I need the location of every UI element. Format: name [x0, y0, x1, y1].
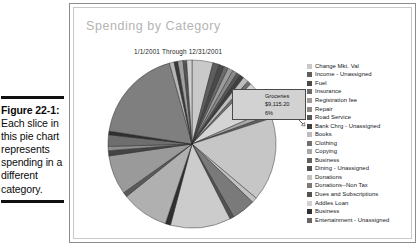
legend-item-label: Dining - Unassigned [315, 165, 369, 172]
legend-item-label: Clothing [315, 140, 337, 147]
legend-item[interactable]: Addles Loan [307, 199, 412, 208]
legend-item[interactable]: Business [307, 156, 412, 165]
legend-item-label: Fuel [315, 80, 327, 87]
legend-item-label: Road Service [315, 114, 351, 121]
pie-chart: Groceries $9,115.20 6% [104, 56, 294, 234]
legend-item-label: Change Mkt. Val [315, 63, 359, 70]
figure-caption-body: Each slice in this pie chart represents … [1, 117, 62, 194]
legend-item[interactable]: Dues and Subscriptions [307, 190, 412, 199]
legend-swatch [307, 158, 312, 163]
legend-swatch [307, 201, 312, 206]
legend-item-label: Donations [315, 174, 342, 181]
callout-amount: $9,115.20 [265, 100, 305, 108]
legend-swatch [307, 81, 312, 86]
legend-swatch [307, 192, 312, 197]
legend-item[interactable]: Dining - Unassigned [307, 165, 412, 174]
legend-item-label: Entertainment - Unassigned [315, 217, 389, 224]
legend-swatch [307, 141, 312, 146]
figure-caption-text: Figure 22-1: Each slice in this pie char… [0, 104, 66, 196]
legend-item-label: Copying [315, 148, 337, 155]
legend-swatch [307, 132, 312, 137]
chart-legend: Change Mkt. ValIncome - UnassignedFuelIn… [307, 62, 412, 224]
legend-swatch [307, 107, 312, 112]
legend-item[interactable]: Change Mkt. Val [307, 62, 412, 71]
legend-swatch [307, 98, 312, 103]
legend-item-label: Bank Chrg - Unassigned [315, 123, 380, 130]
legend-item-label: Registration fee [315, 97, 357, 104]
legend-swatch [307, 175, 312, 180]
legend-swatch [307, 149, 312, 154]
pie-chart-slices [107, 59, 281, 233]
legend-swatch [307, 166, 312, 171]
data-callout[interactable]: Groceries $9,115.20 6% [232, 89, 306, 120]
legend-item[interactable]: Insurance [307, 88, 412, 97]
legend-swatch [307, 72, 312, 77]
legend-item[interactable]: Business [307, 207, 412, 216]
callout-percent: 6% [265, 109, 305, 117]
legend-item[interactable]: Clothing [307, 139, 412, 148]
legend-swatch [307, 64, 312, 69]
legend-item-label: Donations--Non Tax [315, 182, 368, 189]
page-title: Spending by Category [86, 19, 221, 33]
figure-number-label: Figure 22-1: [1, 104, 59, 116]
legend-item-label: Books [315, 131, 332, 138]
report-window: Spending by Category 1/1/2001 Through 12… [69, 3, 416, 243]
legend-item[interactable]: Donations [307, 173, 412, 182]
caption-rule-top [1, 96, 64, 99]
legend-item[interactable]: Copying [307, 147, 412, 156]
legend-item[interactable]: Income - Unassigned [307, 71, 412, 80]
legend-item[interactable]: Fuel [307, 79, 412, 88]
legend-item-label: Repair [315, 106, 333, 113]
legend-swatch [307, 209, 312, 214]
legend-item-label: Income - Unassigned [315, 71, 372, 78]
legend-item[interactable]: Books [307, 130, 412, 139]
figure-caption-block: Figure 22-1: Each slice in this pie char… [0, 96, 66, 203]
legend-swatch [307, 115, 312, 120]
legend-item[interactable]: Donations--Non Tax [307, 182, 412, 191]
legend-item[interactable]: Registration fee [307, 96, 412, 105]
legend-swatch [307, 183, 312, 188]
legend-item[interactable]: Repair [307, 105, 412, 114]
legend-swatch [307, 124, 312, 129]
legend-item-label: Business [315, 208, 339, 215]
legend-item-label: Addles Loan [315, 200, 348, 207]
caption-rule-bottom [1, 200, 64, 203]
legend-item-label: Business [315, 157, 339, 164]
legend-item[interactable]: Entertainment - Unassigned [307, 216, 412, 225]
report-canvas: Spending by Category 1/1/2001 Through 12… [73, 7, 412, 239]
legend-swatch [307, 89, 312, 94]
legend-swatch [307, 218, 312, 223]
legend-item[interactable]: Road Service [307, 113, 412, 122]
callout-category: Groceries [265, 92, 305, 100]
legend-item[interactable]: Bank Chrg - Unassigned [307, 122, 412, 131]
legend-item-label: Dues and Subscriptions [315, 191, 378, 198]
legend-item-label: Insurance [315, 88, 341, 95]
report-date-range: 1/1/2001 Through 12/31/2001 [134, 48, 222, 55]
